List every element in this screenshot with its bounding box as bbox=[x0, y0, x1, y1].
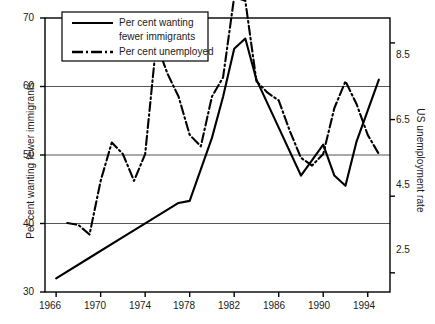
x-tick-label-1970: 1970 bbox=[72, 300, 118, 311]
x-tick-label-1982: 1982 bbox=[206, 300, 252, 311]
x-tick-label-1990: 1990 bbox=[296, 300, 342, 311]
legend-label-unemployed: Per cent unemployed bbox=[119, 46, 214, 57]
legend-label-immigrants-line1: Per cent wanting bbox=[119, 17, 194, 28]
y-tick-label-right-4-5: 4.5 bbox=[396, 179, 426, 190]
y-tick-label-left-70: 70 bbox=[8, 12, 34, 23]
x-tick-label-1994: 1994 bbox=[341, 300, 387, 311]
y-tick-label-right-2-5: 2.5 bbox=[396, 244, 426, 255]
y-tick-label-left-40: 40 bbox=[8, 218, 34, 229]
y-tick-label-right-8-5: 8.5 bbox=[396, 49, 426, 60]
chart-figure: Per cent wanting fewer immigrants US une… bbox=[0, 0, 435, 324]
x-tick-label-1966: 1966 bbox=[27, 300, 73, 311]
series-line-immigrants bbox=[56, 39, 379, 279]
x-tick-label-1978: 1978 bbox=[161, 300, 207, 311]
y-tick-label-left-60: 60 bbox=[8, 80, 34, 91]
y-tick-label-left-30: 30 bbox=[8, 286, 34, 297]
y-tick-label-left-50: 50 bbox=[8, 149, 34, 160]
legend-label-immigrants-line2: fewer immigrants bbox=[119, 31, 195, 42]
x-tick-label-1986: 1986 bbox=[251, 300, 297, 311]
plot-area bbox=[0, 0, 435, 324]
y-tick-label-right-6-5: 6.5 bbox=[396, 114, 426, 125]
x-tick-label-1974: 1974 bbox=[117, 300, 163, 311]
y-axis-title-right: US unemployment rate bbox=[415, 71, 426, 251]
